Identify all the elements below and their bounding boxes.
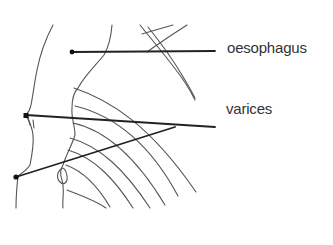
upper-tube-1 bbox=[140, 25, 195, 100]
upper-branch-1 bbox=[142, 25, 173, 34]
leader-varices-lower bbox=[16, 127, 175, 177]
leader-oesophagus bbox=[72, 51, 215, 52]
pointer-dot-varices-lower bbox=[13, 174, 18, 179]
leader-varices-upper bbox=[26, 115, 215, 127]
upper-branch-2 bbox=[147, 25, 187, 52]
varix-curve-5 bbox=[68, 150, 133, 208]
label-varices: varices bbox=[226, 101, 272, 116]
label-oesophagus: oesophagus bbox=[227, 40, 307, 55]
anatomy-drawing bbox=[0, 0, 333, 245]
pointer-dot-oesophagus bbox=[70, 50, 75, 55]
pointer-dot-varices-upper bbox=[24, 113, 29, 118]
oesophageal-varices-diagram: oesophagus varices bbox=[0, 0, 333, 245]
varix-curve-4 bbox=[70, 138, 150, 208]
